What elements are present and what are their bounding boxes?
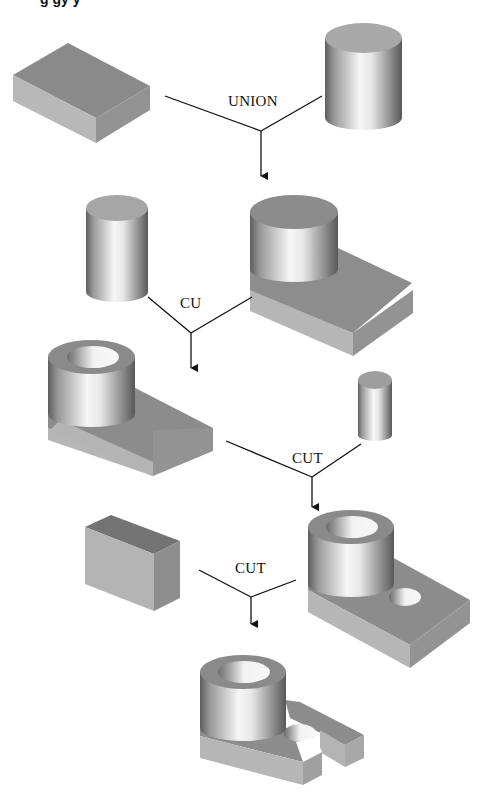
cylinder-on-block-result-1 [250, 195, 413, 356]
union-label: UNION [228, 93, 278, 110]
csg-diagram [0, 0, 492, 807]
block-operand-1 [13, 43, 150, 143]
hollow-boss-on-block-result-2 [48, 340, 213, 476]
cylinder-operand-1 [325, 23, 402, 130]
cut-label-1: CUT [292, 450, 323, 467]
boss-block-with-hole-result-3 [308, 510, 470, 668]
block-operand-4 [85, 515, 180, 611]
cu-label: CU [180, 295, 201, 312]
cylinder-operand-2 [86, 195, 148, 302]
small-cylinder-operand-3 [358, 371, 392, 441]
forked-bracket-final-result [200, 655, 364, 785]
cut-connector-2 [199, 570, 296, 624]
cut-label-2: CUT [235, 560, 266, 577]
